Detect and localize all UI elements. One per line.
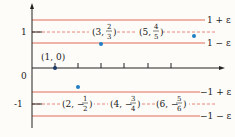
x-ticks xyxy=(55,63,171,68)
svg-text:(3,: (3, xyxy=(92,27,104,37)
svg-text:5: 5 xyxy=(177,95,181,103)
point-n3 xyxy=(99,42,103,46)
point-label-1-0: (1, 0) xyxy=(41,52,65,62)
svg-text:(2, −: (2, − xyxy=(62,99,85,109)
sequence-diagram: 1 0 -1 1 + ε 1 − ε −1 + ε −1 − ε (1, 0) … xyxy=(0,0,235,137)
point-n7 xyxy=(192,34,196,38)
svg-text:): ) xyxy=(113,27,117,37)
svg-text:(5,: (5, xyxy=(139,27,151,37)
svg-text:5: 5 xyxy=(154,33,158,41)
svg-text:2: 2 xyxy=(83,105,87,113)
svg-text:3: 3 xyxy=(131,95,135,103)
svg-text:): ) xyxy=(89,99,93,109)
y-label-0: 0 xyxy=(21,71,27,81)
svg-text:3: 3 xyxy=(107,33,111,41)
svg-text:2: 2 xyxy=(107,23,111,31)
point-label-5: (5, 4 5 ) xyxy=(136,22,164,42)
svg-text:4: 4 xyxy=(154,23,159,31)
point-label-4: (4, − 3 4 ) xyxy=(108,94,142,114)
y-label-neg1: -1 xyxy=(14,99,23,109)
label-1-plus-epsilon: 1 + ε xyxy=(207,15,231,25)
svg-text:): ) xyxy=(183,99,187,109)
label-neg1-minus-epsilon: −1 − ε xyxy=(200,111,232,121)
svg-text:6: 6 xyxy=(177,105,182,113)
point-n2 xyxy=(76,85,80,89)
label-1-minus-epsilon: 1 − ε xyxy=(207,38,231,48)
svg-text:): ) xyxy=(160,27,164,37)
point-label-3: (3, 2 3 ) xyxy=(89,22,117,42)
svg-text:1: 1 xyxy=(83,95,87,103)
point-label-2: (2, − 1 2 ) xyxy=(60,94,94,114)
point-n1 xyxy=(53,66,57,70)
svg-text:): ) xyxy=(137,99,141,109)
svg-text:(4, −: (4, − xyxy=(110,99,133,109)
x-axis-arrow-icon xyxy=(219,66,225,70)
svg-text:(6, −: (6, − xyxy=(156,99,179,109)
svg-text:4: 4 xyxy=(131,105,136,113)
y-label-1: 1 xyxy=(21,27,27,37)
label-neg1-plus-epsilon: −1 + ε xyxy=(200,87,232,97)
y-axis-arrow-icon xyxy=(30,3,34,9)
point-label-6: (6, − 5 6 ) xyxy=(155,94,189,114)
